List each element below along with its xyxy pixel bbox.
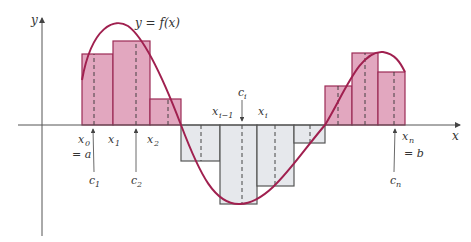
svg-text:x: x [78,133,85,146]
y-axis-label: y [30,13,38,27]
svg-text:2: 2 [153,139,159,148]
svg-text:n: n [396,180,401,189]
svg-text:2: 2 [136,180,142,189]
svg-text:x: x [147,133,154,146]
label-x0: x 0 [78,133,90,148]
rect-2 [113,41,150,125]
svg-text:x: x [258,105,265,118]
label-x1: x 1 [108,133,120,148]
svg-text:x: x [108,133,115,146]
svg-text:1: 1 [115,139,120,148]
label-equals-b: = b [404,147,424,160]
svg-text:i: i [244,92,247,101]
label-equals-a: = a [72,148,91,161]
label-xi-minus-1: x i−1 [212,105,233,120]
rect-7 [294,125,325,143]
rect-5 [220,125,257,204]
svg-text:i: i [265,111,268,120]
curve-label: y = f(x) [134,16,180,30]
label-cn: c n [390,174,401,189]
arrow-cn [394,129,395,172]
svg-text:n: n [409,136,414,145]
label-x2: x 2 [147,133,159,148]
svg-text:x: x [212,105,219,118]
svg-text:0: 0 [85,139,90,148]
svg-text:1: 1 [95,180,100,189]
label-xn: x n [402,130,414,145]
arrow-c1 [93,129,94,172]
label-ci: c i [238,86,247,101]
rect-10 [378,72,405,125]
label-c1: c 1 [89,174,100,189]
label-xi: x i [258,105,268,120]
x-axis-label: x [452,129,459,143]
rect-6 [257,125,294,186]
svg-text:i−1: i−1 [219,111,233,120]
rect-1 [82,54,113,125]
svg-text:x: x [402,130,409,143]
rect-4 [181,125,220,161]
label-c2: c 2 [131,174,142,189]
riemann-sum-diagram: y x y = f(x) x 0 = a x 1 x 2 x i−1 x i x… [0,0,471,242]
